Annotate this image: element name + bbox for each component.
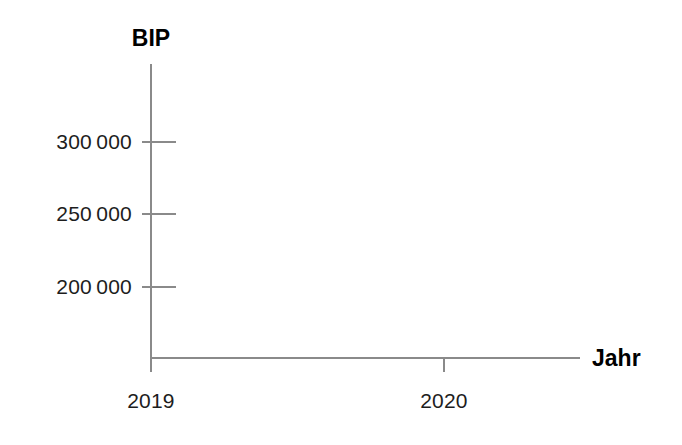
y-axis-tick-label: 300 000 bbox=[22, 131, 132, 152]
y-axis-title: BIP bbox=[101, 25, 201, 51]
x-axis-tick-label: 2019 bbox=[96, 390, 206, 411]
y-axis-tick-mark bbox=[142, 213, 176, 215]
y-axis-tick-label: 250 000 bbox=[22, 203, 132, 224]
x-axis-tick-mark bbox=[443, 357, 445, 372]
chart-figure: BIP Jahr 300 000 250 000 200 000 2019 20… bbox=[0, 0, 682, 445]
x-axis-line bbox=[150, 357, 580, 359]
y-axis-tick-label: 200 000 bbox=[22, 276, 132, 297]
y-axis-tick-mark bbox=[142, 286, 176, 288]
plot-area bbox=[152, 64, 580, 357]
x-axis-tick-mark bbox=[150, 357, 152, 372]
y-axis-tick-mark bbox=[142, 141, 176, 143]
x-axis-title: Jahr bbox=[592, 345, 641, 371]
x-axis-tick-label: 2020 bbox=[389, 390, 499, 411]
